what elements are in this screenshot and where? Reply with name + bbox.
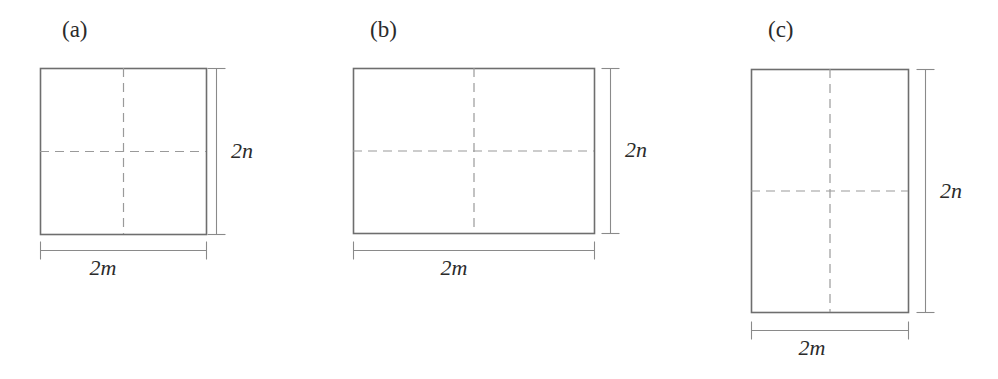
panel-c-height-label: 2n [940, 180, 962, 202]
panel-c-label: (c) [768, 18, 794, 41]
panel-a-label: (a) [62, 18, 88, 41]
figure-panel-a [40, 68, 226, 260]
panel-b-width-label: 2m [441, 257, 468, 279]
figure-panel-b [353, 68, 620, 260]
panel-b-label: (b) [370, 18, 397, 41]
panel-c-width-label: 2m [799, 337, 826, 359]
figure-canvas [0, 0, 998, 379]
panel-b-height-label: 2n [625, 139, 647, 161]
panel-a-height-label: 2n [231, 140, 253, 162]
figure-panel-c [751, 69, 935, 340]
panel-a-width-label: 2m [90, 257, 117, 279]
